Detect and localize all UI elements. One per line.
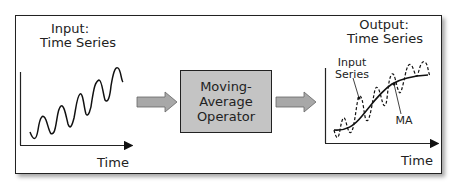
operator-line3: Operator (197, 109, 255, 124)
annotation-input-line2: Series (332, 69, 372, 81)
output-x-axis-label: Time (392, 153, 442, 168)
annotation-ma: MA (392, 115, 416, 127)
arrow-right-2 (276, 92, 316, 112)
output-title-line2: Time Series (335, 31, 435, 46)
input-series-line (30, 68, 123, 139)
input-title-line1: Input: (30, 21, 110, 36)
input-title-line2: Time Series (28, 35, 128, 50)
input-x-axis-label: Time (88, 155, 138, 170)
operator-line2: Average (197, 94, 255, 109)
output-title-line1: Output: (344, 17, 424, 32)
moving-average-operator-box: Moving- Average Operator (180, 70, 272, 133)
operator-line1: Moving- (197, 79, 255, 94)
arrow-right-1 (137, 92, 177, 112)
input-series-pointer (353, 78, 359, 98)
